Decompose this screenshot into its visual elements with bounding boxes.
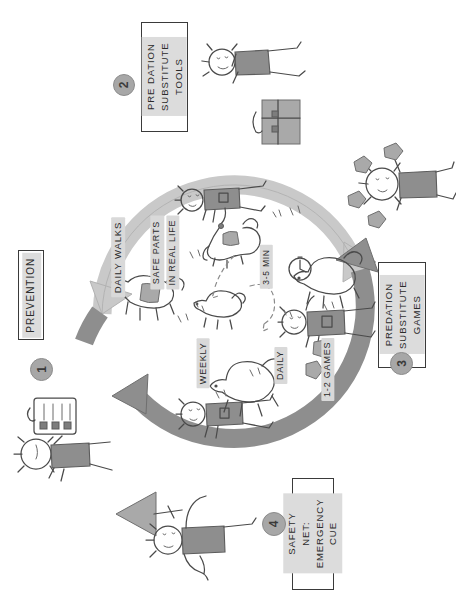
label-duration-text: 3-5 MIN	[260, 245, 273, 289]
step-4-label-line2: EMERGENCY CUE	[313, 499, 341, 569]
step-2-label-line1: PRE DATION	[144, 43, 158, 112]
label-games-count-text: 1-2 GAMES	[321, 338, 334, 401]
label-weekly-text: WEEKLY	[197, 338, 210, 388]
cycle-arrow-left	[84, 312, 100, 342]
step-1-number-text: 1	[35, 366, 49, 373]
label-games-count: 1-2 GAMES	[322, 338, 333, 401]
step-3-label-line2: SUBSTITUTE	[395, 281, 409, 350]
label-duration: 3-5 MIN	[261, 245, 271, 289]
person-toolbag-icon	[200, 38, 320, 148]
step-2-number: 2	[113, 74, 135, 96]
step-2-box: PRE DATION SUBSTITUTE TOOLS	[141, 22, 188, 132]
person-arrow-icon	[110, 478, 260, 588]
label-daily-walks: DAILY WALKS	[112, 218, 123, 298]
label-weekly: WEEKLY	[198, 338, 209, 388]
step-3-number-text: 3	[395, 360, 409, 367]
label-daily-text: DAILY	[274, 347, 287, 384]
step-2-number-text: 2	[117, 82, 131, 89]
label-safe-parts-line1: SAFE PARTS	[150, 216, 164, 290]
step-3-label-line3: GAMES	[409, 281, 423, 350]
step-2-label-line2: SUBSTITUTE	[158, 43, 172, 112]
label-daily: DAILY	[275, 347, 286, 384]
step-4-number-text: 4	[267, 521, 281, 528]
step-4-box: SAFETY NET: EMERGENCY CUE	[292, 478, 334, 590]
step-2-label-line3: TOOLS	[171, 43, 185, 112]
label-safe-parts-line2: IN REAL LIFE	[166, 216, 180, 290]
step-1-number: 1	[30, 358, 53, 381]
label-daily-walks-text: DAILY WALKS	[111, 218, 125, 298]
step-1-label: PREVENTION	[24, 257, 39, 332]
step-4-label-line1: SAFETY NET:	[285, 499, 313, 569]
step-1-box: PREVENTION	[18, 250, 44, 340]
label-safe-parts: SAFE PARTS IN REAL LIFE	[150, 216, 179, 290]
step-4-number: 4	[262, 512, 286, 536]
